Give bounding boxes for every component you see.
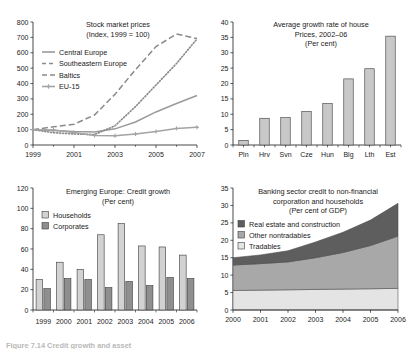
- x-tick-2002: 2002: [280, 316, 296, 323]
- bar-households-2003: [118, 224, 125, 310]
- x-tick-2004: 2004: [138, 318, 154, 325]
- svg-text:(Per cent): (Per cent): [305, 39, 337, 48]
- x-tick-1999: 1999: [35, 318, 51, 325]
- legend-label-1: Southeastern Europe: [59, 59, 127, 68]
- bar-corporates-2005: [167, 277, 174, 310]
- svg-text:600: 600: [17, 49, 29, 56]
- x-tick-Est: Est: [385, 151, 395, 158]
- x-tick-Lth: Lth: [365, 151, 375, 158]
- credit-growth-chart: 0204060801001201999200020012002200320042…: [0, 172, 204, 334]
- bar-Hrv: [260, 118, 269, 145]
- svg-text:60: 60: [21, 246, 29, 253]
- bar-Est: [386, 36, 395, 145]
- bar-corporates-2000: [64, 278, 71, 310]
- legend-swatch-2: [238, 243, 244, 249]
- x-tick-2003: 2003: [308, 316, 324, 323]
- svg-text:15: 15: [221, 95, 229, 102]
- bar-Blg: [344, 79, 353, 145]
- panel-emerging-europe-credit-growth: 0204060801001201999200020012002200320042…: [0, 172, 204, 334]
- bars: [36, 224, 194, 310]
- bar-households-1999: [36, 280, 43, 311]
- x-tick-2003: 2003: [117, 318, 133, 325]
- legend-swatch-1: [238, 232, 244, 238]
- legend-label-1: Corporates: [53, 222, 89, 231]
- bar-households-2006: [180, 255, 187, 310]
- y-axis: 05101520253035: [221, 185, 233, 314]
- bar-corporates-2001: [85, 280, 92, 311]
- x-tick-2005: 2005: [158, 318, 174, 325]
- svg-text:100: 100: [17, 126, 29, 133]
- bar-Hun: [323, 103, 332, 145]
- svg-text:Stock market prices: Stock market prices: [86, 20, 150, 29]
- x-tick-Blg: Blg: [343, 151, 353, 159]
- x-tick-2004: 2004: [335, 316, 351, 323]
- legend-label-0: Central Europe: [59, 48, 107, 57]
- legend: Central EuropeSoutheastern EuropeBaltics…: [42, 48, 127, 92]
- bar-Lth: [365, 69, 374, 145]
- x-tick-Svn: Svn: [279, 151, 291, 158]
- panel-banking-sector-credit: 0510152025303520002001200220032004200520…: [205, 172, 407, 334]
- bar-corporates-2003: [126, 282, 133, 310]
- legend-swatch-0: [238, 221, 244, 227]
- bar-corporates-1999: [44, 289, 51, 310]
- legend-label-0: Real estate and construction: [249, 220, 340, 229]
- y-axis: 0100200300400500600700800: [17, 19, 33, 149]
- data-lines: [31, 34, 199, 138]
- svg-text:800: 800: [17, 19, 29, 26]
- area-tradables: [233, 288, 398, 310]
- svg-text:corporation and households: corporation and households: [273, 197, 363, 206]
- x-tick-2001: 2001: [76, 318, 92, 325]
- legend: HouseholdsCorporates: [42, 211, 91, 231]
- bar-households-2000: [57, 262, 64, 310]
- svg-text:1999: 1999: [25, 151, 41, 158]
- stock-market-chart: 0100200300400500600700800199920012003200…: [0, 2, 204, 168]
- svg-text:Banking sector credit to non-f: Banking sector credit to non-financial: [258, 187, 378, 196]
- y-axis: 020406080100120: [17, 185, 33, 314]
- svg-text:400: 400: [17, 80, 29, 87]
- figure-container: 0100200300400500600700800199920012003200…: [0, 0, 407, 349]
- svg-text:700: 700: [17, 34, 29, 41]
- bar-Svn: [281, 118, 290, 145]
- svg-text:15: 15: [221, 254, 229, 261]
- x-tick-2005: 2005: [363, 316, 379, 323]
- legend-label-3: EU-15: [59, 82, 79, 91]
- x-tick-2001: 2001: [253, 316, 269, 323]
- svg-text:200: 200: [17, 111, 29, 118]
- bar-households-2005: [159, 247, 166, 310]
- svg-text:40: 40: [221, 19, 229, 26]
- x-axis: PlnHrvSvnCzeHunBlgLthEst: [233, 145, 401, 159]
- svg-text:(Per cent): (Per cent): [102, 197, 134, 206]
- figure-caption: Figure 7.14 Credit growth and asset: [6, 341, 401, 349]
- x-tick-2000: 2000: [225, 316, 241, 323]
- y-axis: 0510152025303540: [221, 19, 233, 149]
- panel-house-price-growth: 0510152025303540PlnHrvSvnCzeHunBlgLthEst…: [205, 2, 407, 168]
- svg-text:25: 25: [221, 65, 229, 72]
- svg-text:40: 40: [21, 266, 29, 273]
- banking-credit-chart: 0510152025303520002001200220032004200520…: [205, 172, 407, 334]
- x-tick-Cze: Cze: [300, 151, 313, 158]
- x-tick-2006: 2006: [179, 318, 195, 325]
- chart-title: Emerging Europe: Credit growth(Per cent): [66, 187, 170, 206]
- legend-label-2: Baltics: [59, 71, 81, 80]
- svg-text:2005: 2005: [148, 151, 164, 158]
- chart-title: Stock market prices(Index, 1999 = 100): [86, 20, 150, 39]
- series-line-2: [33, 34, 197, 130]
- svg-text:120: 120: [17, 185, 29, 192]
- legend-label-0: Households: [53, 211, 91, 220]
- chart-title: Banking sector credit to non-financialco…: [258, 187, 378, 215]
- x-axis: 2000200120022003200420052006: [225, 310, 406, 323]
- x-axis: 19992001200320052007: [25, 145, 205, 158]
- x-tick-Pln: Pln: [238, 151, 248, 158]
- svg-text:35: 35: [221, 34, 229, 41]
- svg-text:(Index, 1999 = 100): (Index, 1999 = 100): [86, 30, 150, 39]
- x-tick-2006: 2006: [390, 316, 406, 323]
- x-axis: 19992000200120022003200420052006: [33, 310, 197, 325]
- x-tick-2002: 2002: [97, 318, 113, 325]
- bar-Pln: [239, 140, 248, 145]
- svg-text:500: 500: [17, 65, 29, 72]
- svg-text:0: 0: [225, 307, 229, 314]
- x-tick-2000: 2000: [56, 318, 72, 325]
- panel-stock-market-prices: 0100200300400500600700800199920012003200…: [0, 2, 204, 168]
- svg-text:20: 20: [221, 80, 229, 87]
- svg-text:5: 5: [225, 126, 229, 133]
